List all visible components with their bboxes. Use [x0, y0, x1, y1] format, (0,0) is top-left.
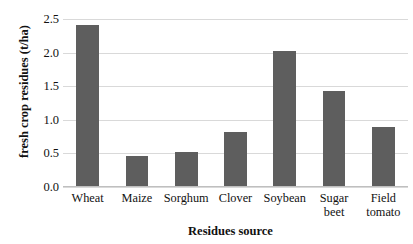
- y-axis-tick-labels: 0.00.51.01.52.02.5: [28, 0, 59, 194]
- x-axis-tick-label-line: Maize: [112, 191, 161, 205]
- x-axis-tick-label-line: Field: [359, 191, 408, 205]
- x-axis-tick-label-line: Sorghum: [162, 191, 211, 205]
- x-axis-tick-label: Maize: [112, 191, 161, 205]
- x-axis-tick-labels: WheatMaizeSorghumCloverSoybeanSugarbeetF…: [63, 191, 408, 227]
- x-axis-tick-label: Sugarbeet: [309, 191, 358, 219]
- bar-chart: fresh crop residues (t/ha) 0.00.51.01.52…: [0, 0, 413, 244]
- y-axis-tick-label: 2.5: [28, 12, 59, 27]
- x-axis-tick-label: Clover: [211, 191, 260, 205]
- x-axis-tick-label: Soybean: [260, 191, 309, 205]
- gridline: [63, 187, 408, 188]
- x-axis-tick-label-line: Sugar: [309, 191, 358, 205]
- plot-area: [63, 19, 408, 187]
- bar: [224, 132, 247, 186]
- x-axis-tick-label: Sorghum: [162, 191, 211, 205]
- x-axis-title: Residues source: [0, 224, 413, 239]
- y-axis-tick-label: 0.5: [28, 146, 59, 161]
- bar-series: [63, 19, 408, 187]
- bar: [76, 25, 99, 186]
- x-axis-tick-label-line: beet: [309, 205, 358, 219]
- bar: [323, 91, 346, 186]
- y-axis-tick-label: 1.0: [28, 112, 59, 127]
- x-axis-tick-label: Wheat: [63, 191, 112, 205]
- bar: [273, 51, 296, 186]
- bar: [126, 156, 149, 186]
- x-axis-tick-label-line: Soybean: [260, 191, 309, 205]
- y-axis-tick-label: 1.5: [28, 79, 59, 94]
- y-axis-tick-label: 0.0: [28, 180, 59, 195]
- x-axis-tick-label-line: tomato: [359, 205, 408, 219]
- x-axis-tick-label-line: Wheat: [63, 191, 112, 205]
- x-axis-tick-label-line: Clover: [211, 191, 260, 205]
- x-axis-tick-label: Fieldtomato: [359, 191, 408, 219]
- y-axis-tick-label: 2.0: [28, 45, 59, 60]
- bar: [372, 127, 395, 186]
- bar: [175, 152, 198, 186]
